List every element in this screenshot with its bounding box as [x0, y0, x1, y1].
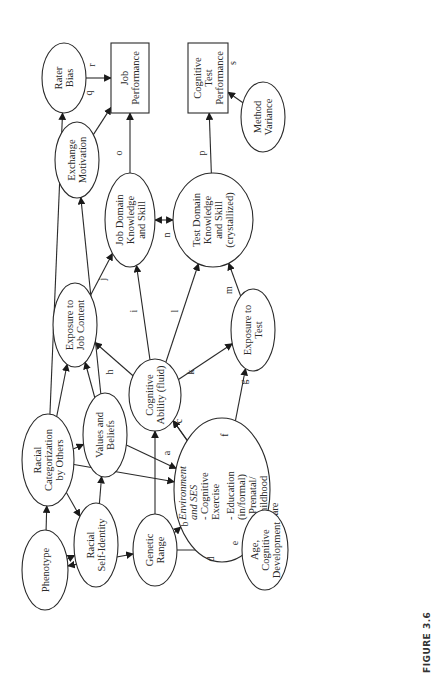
node-exposure-test: Exposure toTest [231, 289, 275, 371]
node-label-line: Performance [130, 51, 141, 105]
node-job-performance: JobPerformance [111, 43, 149, 113]
edge-label-l: l [169, 309, 180, 312]
node-label-line: by Others [54, 439, 65, 480]
node-label-line: Racial [85, 532, 96, 559]
figure-caption: FIGURE 3.6 [422, 612, 432, 673]
node-label-line: Rater [53, 66, 64, 89]
edge-cognitive-ability-to-test-domain-knowledge [166, 264, 199, 362]
node-values-beliefs: Values andBeliefs [83, 393, 127, 477]
edge-label-k: k [185, 370, 196, 375]
node-label-line: Genetic [144, 533, 155, 566]
edge-racial-categorization-to-racial-self-identity [66, 493, 79, 517]
node-racial-categorization: RacialCategorizationby Others [22, 414, 74, 506]
node-label-line: and Skill [213, 201, 224, 239]
edge-label-g: g [238, 380, 249, 385]
node-label-line: - Cognitive [199, 472, 210, 520]
edge-label-d: d [205, 557, 216, 562]
node-label-line: Ability (fluid) [155, 365, 167, 425]
edge-exposure-job-content-to-job-domain-knowledge [91, 253, 113, 295]
node-label-line: Exposure to [242, 305, 253, 355]
node-label-line: Development [271, 522, 282, 579]
node-label-line: Categorization [43, 428, 54, 491]
node-label-line: Test [253, 321, 264, 338]
node-label-line: Self-Identity [96, 518, 107, 572]
node-job-domain-knowledge: Job DomainKnowledgeand Skill [105, 173, 155, 267]
edge-cognitive-ability-to-job-domain-knowledge [136, 265, 149, 359]
node-label-line: (crystallized) [224, 192, 236, 248]
edge-label-c: c [173, 418, 184, 423]
node-racial-self-identity: RacialSelf-Identity [74, 503, 118, 587]
node-label-line: Performance [214, 51, 225, 105]
edge-values-beliefs-to-environment-ses [126, 445, 176, 468]
node-label-line: Method [252, 100, 263, 133]
node-rater-bias: RaterBias [42, 43, 86, 113]
node-label-line: Bias [64, 69, 75, 88]
edge-label-a: a [161, 450, 172, 455]
node-exchange-motivation: ExchangeMotivation [55, 122, 99, 198]
node-label-line: Test Domain [191, 192, 202, 247]
node-label-line: Racial [32, 447, 43, 474]
node-label-line: and Skill [136, 201, 147, 239]
edge-racial-categorization-to-environment-ses [74, 464, 174, 481]
node-label-line: and SES [188, 484, 199, 520]
figure-diagram: RaterBiasJobPerformanceExchangeMotivatio… [0, 0, 441, 679]
edge-racial-categorization-to-values-beliefs [73, 444, 83, 449]
edge-label-b: b [179, 522, 190, 527]
edge-phenotype-to-racial-categorization [46, 506, 47, 530]
node-age-development: Age,CognitiveDevelopment [242, 510, 288, 590]
edge-label-n: n [161, 233, 172, 238]
node-label-line: Cognitive [260, 529, 271, 571]
node-label-line: Knowledge [202, 195, 213, 244]
node-label-line: Exercise [210, 484, 221, 520]
node-phenotype: Phenotype [22, 530, 68, 610]
node-test-domain-knowledge: Test DomainKnowledgeand Skill(crystalliz… [173, 173, 253, 267]
edge-phenotype-to-racial-self-identity [67, 555, 75, 559]
edge-genetic-range-to-environment-ses [174, 527, 180, 533]
edge-label-q: q [83, 91, 94, 96]
edge-label-o: o [113, 151, 124, 156]
node-label-line: Knowledge [125, 195, 136, 244]
node-label-line: Values and [94, 411, 105, 458]
edge-label-i: i [128, 309, 139, 312]
node-genetic-range: GeneticRange [133, 514, 177, 586]
node-label-line: Job [119, 71, 130, 86]
path-diagram-svg: RaterBiasJobPerformanceExchangeMotivatio… [0, 0, 441, 679]
node-label-line: Variance [263, 98, 274, 135]
edge-label-r: r [86, 63, 97, 67]
node-label-line: Motivation [77, 136, 88, 183]
edge-label-m: m [223, 286, 234, 294]
node-label-line: Cognitive [192, 57, 203, 99]
edge-exchange-motivation-to-job-performance [93, 107, 111, 134]
edge-label-h: h [104, 370, 115, 375]
node-label-line: Environment [177, 465, 188, 521]
node-label-line: Range [155, 536, 166, 563]
edge-method-variance-to-cognitive-test-performance [228, 92, 243, 103]
edge-racial-self-identity-to-values-beliefs [99, 476, 101, 503]
node-label-line: Beliefs [105, 420, 116, 450]
node-method-variance: MethodVariance [241, 82, 285, 152]
edge-label-e: e [229, 540, 240, 545]
node-label-line: Age, [249, 540, 260, 560]
node-label-line: Job Domain [114, 194, 125, 246]
node-label-line: - Education [225, 471, 236, 520]
edge-test-domain-knowledge-to-cognitive-test-performance [209, 113, 211, 173]
node-label-line: Phenotype [40, 547, 51, 592]
edge-label-s: s [227, 61, 238, 65]
node-exposure-job-content: Exposure toJob Content [53, 283, 97, 367]
node-label-line: Test [203, 69, 214, 86]
edge-values-beliefs-to-exposure-job-content [85, 362, 95, 397]
node-label-line: Exchange [66, 139, 77, 181]
edge-label-f: f [219, 433, 230, 437]
node-label-line: Cognitive [144, 374, 155, 416]
node-label-line: Exposure to [64, 300, 75, 350]
edge-label-p: p [196, 151, 207, 156]
edge-racial-categorization-to-exposure-job-content [57, 364, 67, 416]
node-label-line: Job Content [75, 300, 86, 351]
node-cognitive-test-performance: CognitiveTestPerformance [188, 43, 228, 113]
edge-environment-ses-to-exposure-test [235, 369, 245, 421]
